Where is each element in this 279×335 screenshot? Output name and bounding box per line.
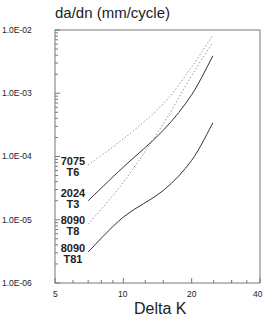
series-label-line2: T81 — [58, 254, 88, 265]
x-axis-label: Delta K — [134, 300, 186, 318]
series-label-8090-t81: 8090 T81 — [58, 243, 88, 265]
y-tick-label: 1.0E-04 — [2, 151, 52, 161]
x-axis-ticks — [55, 278, 260, 283]
series-label-8090-t8: 8090 T8 — [58, 215, 88, 237]
series-label-line2: T8 — [58, 226, 88, 237]
series-line-8090-t8 — [88, 42, 213, 224]
series-line-2024-t3 — [88, 56, 213, 201]
x-tick-label: 5 — [53, 289, 58, 299]
chart-title: da/dn (mm/cycle) — [55, 4, 170, 21]
x-tick-label: 10 — [118, 289, 127, 299]
y-tick-label: 1.0E-02 — [2, 25, 52, 35]
x-tick-label: 40 — [253, 289, 262, 299]
series-label-2024-t3: 2024 T3 — [58, 188, 88, 210]
series-label-line2: T6 — [58, 167, 88, 178]
x-tick-label: 20 — [187, 289, 196, 299]
y-tick-label: 1.0E-06 — [2, 278, 52, 288]
y-tick-label: 1.0E-05 — [2, 215, 52, 225]
data-series — [88, 35, 213, 252]
series-label-line2: T3 — [58, 199, 88, 210]
series-label-7075-t6: 7075 T6 — [58, 156, 88, 178]
y-tick-label: 1.0E-03 — [2, 88, 52, 98]
series-line-7075-t6 — [88, 35, 213, 165]
